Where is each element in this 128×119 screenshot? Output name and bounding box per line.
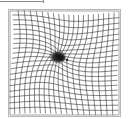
top-rule-line: [0, 0, 44, 3]
amsler-grid-canvas: [0, 0, 128, 119]
amsler-grid-figure: Amsler grid with central distortion and …: [0, 0, 128, 119]
grid-vertical-lines: [10, 10, 119, 115]
central-scotoma-blotch: [49, 50, 68, 64]
